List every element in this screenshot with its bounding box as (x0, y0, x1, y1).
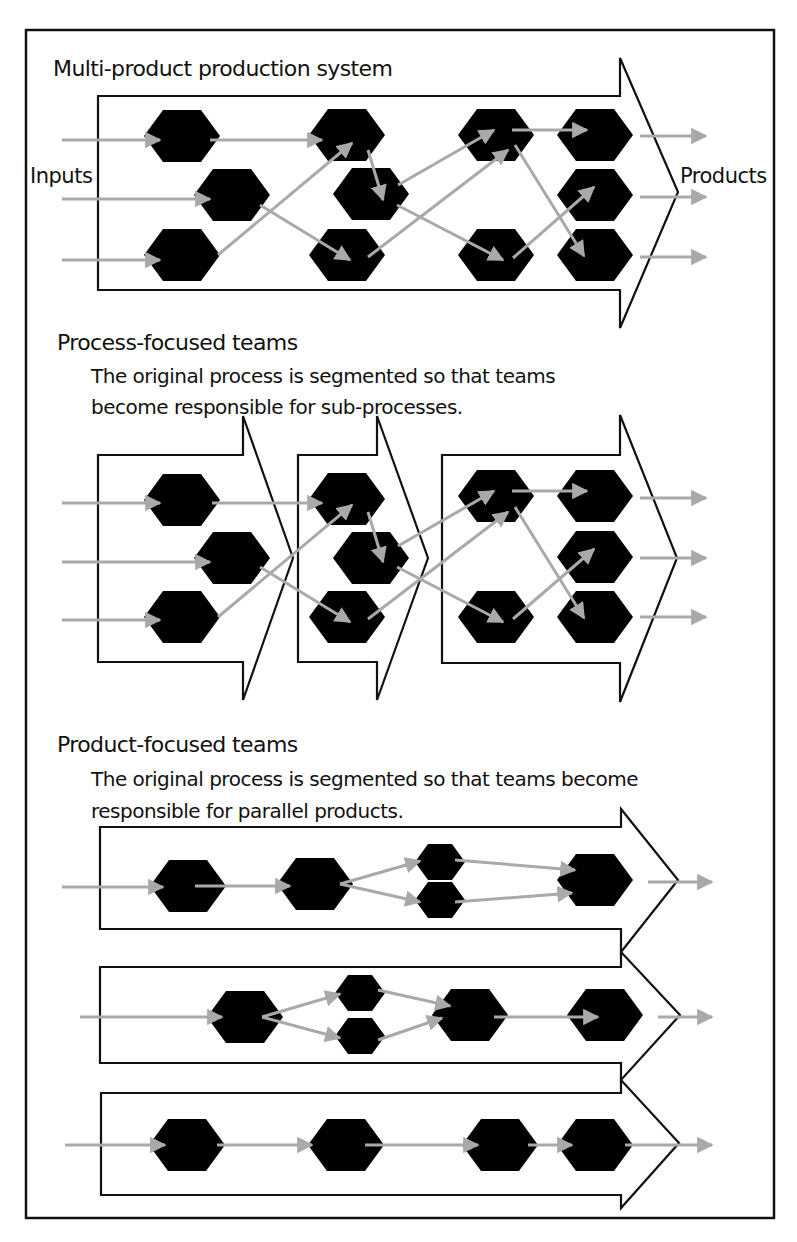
section-description-line: The original process is segmented so tha… (90, 364, 555, 388)
section-description-line: responsible for parallel products. (91, 799, 403, 823)
section-title: Product-focused teams (57, 732, 298, 757)
production-system-diagram: Multi-product production system Inputs P… (0, 0, 797, 1242)
section-description-line: become responsible for sub-processes. (91, 395, 463, 419)
section-description-line: The original process is segmented so tha… (90, 767, 638, 791)
section-title: Process-focused teams (57, 330, 298, 355)
section-title: Multi-product production system (53, 56, 392, 81)
section-process-focused: Process-focused teams The original proce… (57, 330, 706, 702)
inputs-label: Inputs (30, 164, 92, 188)
section-multi-product: Multi-product production system Inputs P… (30, 56, 767, 328)
products-label: Products (680, 164, 767, 188)
section-product-focused: Product-focused teams The original proce… (57, 732, 712, 1208)
